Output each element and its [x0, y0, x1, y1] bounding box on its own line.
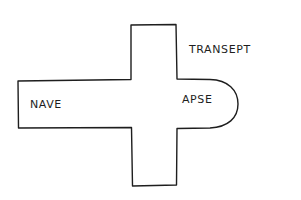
apse-label: APSE [182, 93, 213, 106]
cruciform-floor-plan-diagram: NAVE APSE TRANSEPT [0, 0, 301, 200]
transept-label: TRANSEPT [188, 43, 251, 56]
nave-label: NAVE [30, 98, 62, 111]
